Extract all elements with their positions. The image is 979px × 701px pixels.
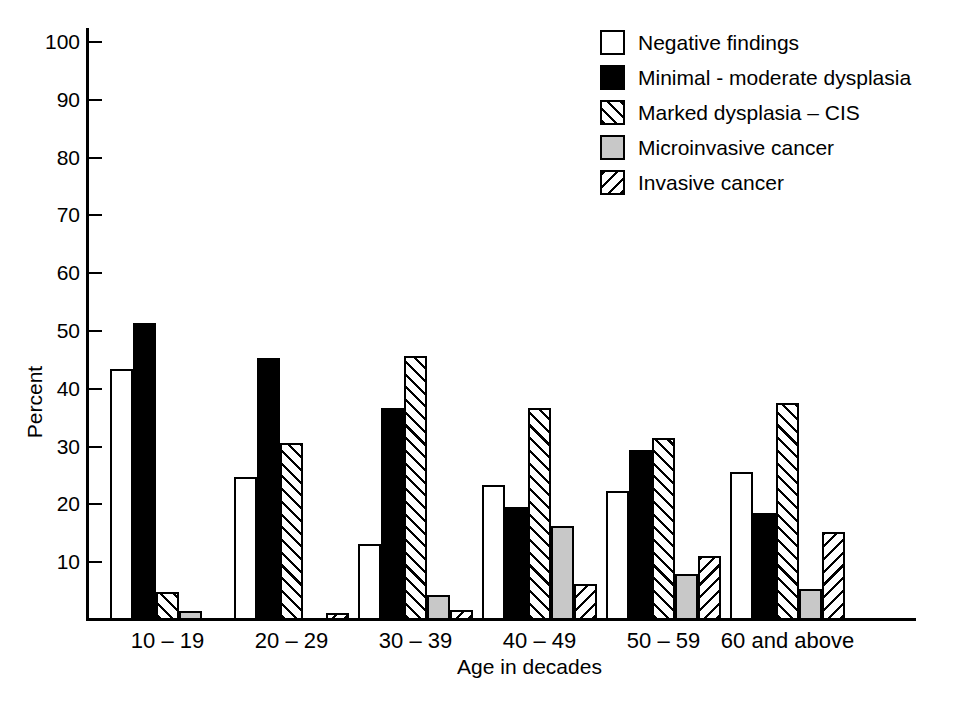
legend-item: Microinvasive cancer: [600, 131, 970, 163]
bar: [450, 610, 473, 620]
legend-item-label: Minimal - moderate dysplasia: [638, 67, 911, 88]
y-axis-tick-label-text: 80: [32, 147, 80, 168]
y-axis-tick-label-text: 50: [32, 320, 80, 341]
legend-item-label: Invasive cancer: [638, 172, 784, 193]
legend-swatch-icon: [600, 135, 625, 160]
chart-legend: Negative findingsMinimal - moderate dysp…: [600, 26, 970, 201]
legend-item-label: Negative findings: [638, 32, 799, 53]
bar: [753, 513, 776, 620]
y-axis-tick-label: 10: [20, 551, 80, 572]
legend-item: Invasive cancer: [600, 166, 970, 198]
legend-item: Negative findings: [600, 26, 970, 58]
bar: [179, 611, 202, 620]
bar: [257, 358, 280, 620]
bar: [675, 574, 698, 620]
bar: [427, 595, 450, 620]
bar: [574, 584, 597, 620]
bar: [505, 507, 528, 620]
chart-page: 102030405060708090100 Percent 10 – 1920 …: [0, 0, 979, 701]
bar: [133, 323, 156, 620]
bar: [156, 592, 179, 620]
y-axis-tick-label: 80: [20, 147, 80, 168]
legend-item: Marked dysplasia – CIS: [600, 96, 970, 128]
legend-swatch-icon: [600, 100, 625, 125]
bar: [326, 613, 349, 621]
y-axis-tick-label: 20: [20, 493, 80, 514]
legend-item-label: Marked dysplasia – CIS: [638, 102, 860, 123]
bar: [629, 450, 652, 620]
y-axis-tick-label: 70: [20, 204, 80, 225]
bar-chart: 102030405060708090100 Percent 10 – 1920 …: [0, 0, 979, 701]
bar: [110, 369, 133, 620]
bar: [381, 408, 404, 620]
y-axis-tick-label-text: 70: [32, 204, 80, 225]
y-axis-tick-label-text: 100: [32, 31, 80, 52]
y-axis-tick-label-text: 90: [32, 89, 80, 110]
y-axis-tick-label-text: 10: [32, 551, 80, 572]
y-axis-tick-label: 90: [20, 89, 80, 110]
bar: [698, 556, 721, 620]
legend-item: Minimal - moderate dysplasia: [600, 61, 970, 93]
bar: [528, 408, 551, 620]
bar: [358, 544, 381, 620]
bar: [280, 443, 303, 620]
bar: [776, 403, 799, 620]
legend-swatch-icon: [600, 65, 625, 90]
y-axis-title: Percent: [23, 342, 47, 462]
legend-item-label: Microinvasive cancer: [638, 137, 834, 158]
bar: [822, 532, 845, 620]
bar: [551, 526, 574, 620]
bar: [234, 477, 257, 620]
y-axis-tick-label: 50: [20, 320, 80, 341]
bar: [606, 491, 629, 620]
bar: [730, 472, 753, 620]
legend-swatch-icon: [600, 30, 625, 55]
bar: [652, 438, 675, 620]
y-axis-tick-label: 60: [20, 262, 80, 283]
y-axis-tick-label-text: 60: [32, 262, 80, 283]
legend-swatch-icon: [600, 170, 625, 195]
x-axis-title: Age in decades: [0, 655, 979, 679]
x-axis-group-label: 60 and above: [698, 628, 878, 654]
bar: [404, 356, 427, 620]
bar: [799, 589, 822, 620]
bar: [482, 485, 505, 620]
y-axis-tick-label: 100: [20, 31, 80, 52]
y-axis-tick-label-text: 20: [32, 493, 80, 514]
